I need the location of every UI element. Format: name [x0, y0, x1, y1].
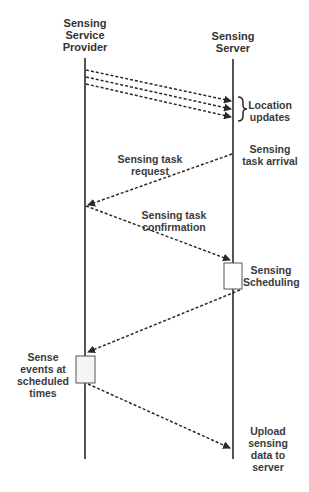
scheduling-label: Sensing Scheduling [243, 264, 299, 288]
upload-arrow [88, 384, 230, 448]
sense-events-label: Sense events at scheduled times [14, 351, 72, 399]
sense-events-activation-box [76, 356, 95, 383]
provider-header: Sensing Service Provider [50, 17, 120, 53]
sequence-diagram-canvas [0, 0, 309, 492]
server-header: Sensing Server [198, 30, 268, 54]
task-confirmation-label: Sensing task confirmation [132, 209, 216, 233]
location-update-arrow-2 [86, 77, 231, 109]
schedule-result-arrow [88, 290, 240, 352]
location-update-arrow-3 [86, 84, 231, 117]
task-arrival-label: Sensing task arrival [238, 143, 302, 167]
location-update-arrows [86, 70, 231, 117]
location-update-arrow-1 [86, 70, 231, 101]
upload-label: Upload sensing data to server [243, 425, 293, 473]
task-request-label: Sensing task request [110, 153, 190, 177]
scheduling-activation-box [224, 263, 242, 289]
location-updates-label: Location updates [245, 99, 295, 123]
